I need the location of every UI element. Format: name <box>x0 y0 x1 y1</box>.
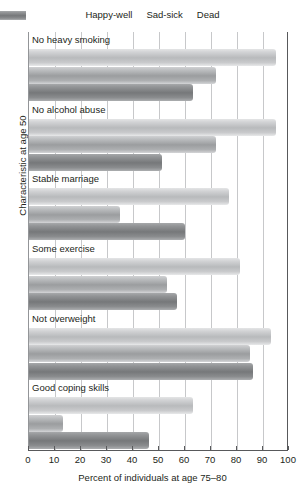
x-tick-label: 70 <box>205 454 216 465</box>
bar-happy <box>29 188 229 205</box>
x-tick <box>288 446 289 450</box>
x-tick <box>236 446 237 450</box>
x-tick-label: 50 <box>153 454 164 465</box>
bar-sad <box>29 276 167 293</box>
legend-label-dead: Dead <box>197 10 220 20</box>
bar-happy <box>29 49 276 66</box>
bar-sad <box>29 415 63 432</box>
category-label: Not overweight <box>32 313 95 324</box>
bar-dead <box>29 223 185 240</box>
legend-swatch-dead <box>0 11 26 20</box>
bar-happy <box>29 119 276 136</box>
x-tick <box>158 446 159 450</box>
y-axis-title: Characteristic at age 50 <box>17 56 28 276</box>
x-tick-label: 10 <box>49 454 60 465</box>
bar-sad <box>29 136 216 153</box>
x-tick <box>54 446 55 450</box>
bar-sad <box>29 67 216 84</box>
legend-item-dead: Dead <box>197 10 220 20</box>
x-tick-label: 30 <box>101 454 112 465</box>
x-tick-label: 90 <box>257 454 268 465</box>
bar-happy <box>29 258 240 275</box>
bar-dead <box>29 432 149 449</box>
bar-sad <box>29 206 120 223</box>
legend-item-happy: Happy-well <box>85 10 132 20</box>
legend-label-sad: Sad-sick <box>146 10 182 20</box>
x-axis-title: Percent of individuals at age 75–80 <box>0 472 305 483</box>
chart-legend: Happy-wellSad-sickDead <box>0 0 305 30</box>
x-tick-label: 40 <box>127 454 138 465</box>
x-axis: 0102030405060708090100 <box>28 450 288 451</box>
category-label: No alcohol abuse <box>32 104 105 115</box>
category-label: Stable marriage <box>32 173 99 184</box>
bar-group: No alcohol abuse <box>29 102 287 172</box>
bar-sad <box>29 345 250 362</box>
x-tick <box>210 446 211 450</box>
bar-dead <box>29 154 162 171</box>
x-tick-label: 20 <box>75 454 86 465</box>
x-tick <box>80 446 81 450</box>
bar-dead <box>29 84 193 101</box>
x-tick-label: 60 <box>179 454 190 465</box>
bar-group: Stable marriage <box>29 171 287 241</box>
bar-groups: No heavy smokingNo alcohol abuseStable m… <box>29 32 287 450</box>
category-label: No heavy smoking <box>32 34 110 45</box>
x-tick-label: 0 <box>25 454 30 465</box>
bar-dead <box>29 293 177 310</box>
bar-happy <box>29 397 193 414</box>
x-tick-label: 80 <box>231 454 242 465</box>
bar-group: No heavy smoking <box>29 32 287 102</box>
x-tick <box>184 446 185 450</box>
category-label: Some exercise <box>32 243 95 254</box>
bar-group: Good coping skills <box>29 380 287 450</box>
legend-item-sad: Sad-sick <box>146 10 182 20</box>
x-tick-label: 100 <box>280 454 296 465</box>
x-tick <box>28 446 29 450</box>
legend-label-happy: Happy-well <box>85 10 132 20</box>
x-tick <box>132 446 133 450</box>
bar-group: Not overweight <box>29 311 287 381</box>
plot-area: No heavy smokingNo alcohol abuseStable m… <box>28 32 288 450</box>
category-label: Good coping skills <box>32 382 109 393</box>
x-tick <box>262 446 263 450</box>
bar-happy <box>29 328 271 345</box>
bar-group: Some exercise <box>29 241 287 311</box>
bar-dead <box>29 363 253 380</box>
x-tick <box>106 446 107 450</box>
